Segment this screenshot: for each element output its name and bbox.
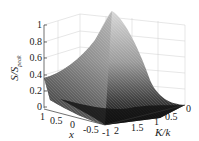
surface bbox=[44, 11, 185, 125]
z-axis bbox=[44, 25, 47, 108]
svg-text:S/Speak: S/Speak bbox=[8, 55, 22, 81]
surface-plot: 1 0.8 0.6 0.4 0.2 0 S/Speak 1 0.5 0 -0.5… bbox=[0, 0, 199, 141]
z-tick-0.2: 0.2 bbox=[30, 85, 43, 96]
x-axis-label: x bbox=[68, 128, 74, 140]
z-tick-0.8: 0.8 bbox=[30, 36, 43, 47]
k-tick-0: 0 bbox=[186, 103, 191, 114]
k-axis-label: K/k bbox=[154, 126, 171, 138]
x-tick-1: 1 bbox=[40, 111, 45, 122]
z-tick-0.6: 0.6 bbox=[30, 52, 43, 63]
z-tick-1: 1 bbox=[37, 19, 42, 30]
z-tick-0.4: 0.4 bbox=[30, 69, 43, 80]
k-tick-0.5: 0.5 bbox=[165, 111, 178, 122]
x-tick-neg1: -1 bbox=[102, 127, 110, 138]
k-tick-2: 2 bbox=[114, 125, 119, 136]
k-tick-1.5: 1.5 bbox=[131, 122, 144, 133]
z-axis-label: S/Speak bbox=[8, 55, 22, 81]
x-tick-0.5: 0.5 bbox=[50, 115, 63, 126]
x-tick-neg0.5: -0.5 bbox=[83, 124, 99, 135]
